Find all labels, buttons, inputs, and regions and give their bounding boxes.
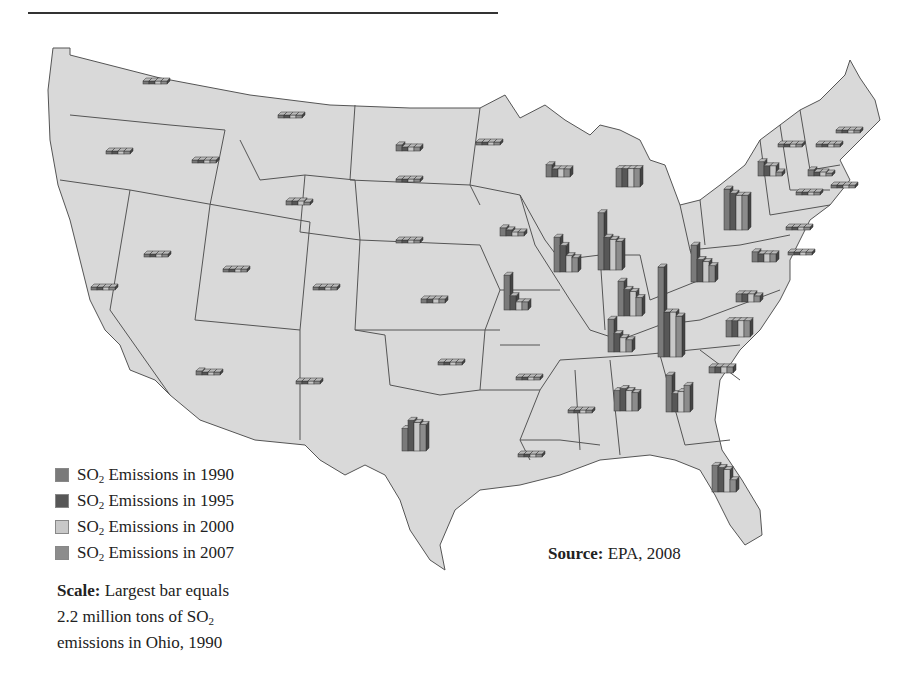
bar-cluster-oregon <box>106 148 133 154</box>
bar-cluster-colorado <box>313 284 340 290</box>
bar-cluster-kansas <box>421 296 448 303</box>
bar-cluster-maine <box>836 127 863 133</box>
bar-cluster-oklahoma <box>438 359 465 365</box>
bar-cluster-new-mexico <box>296 378 323 384</box>
bar-cluster-michigan <box>616 166 643 187</box>
legend: SO2 Emissions in 1990 SO2 Emissions in 1… <box>55 462 234 566</box>
bar-cluster-arizona <box>196 368 223 375</box>
bar-cluster-nevada <box>144 251 171 257</box>
bar-cluster-maryland <box>752 249 779 262</box>
scale-note: Scale: Largest bar equals 2.2 million to… <box>57 578 297 656</box>
legend-item-1990: SO2 Emissions in 1990 <box>55 462 234 488</box>
source-label: Source: <box>548 544 603 563</box>
bar-cluster-utah <box>223 266 250 272</box>
legend-item-2000: SO2 Emissions in 2000 <box>55 514 234 540</box>
legend-item-2007: SO2 Emissions in 2007 <box>55 540 234 566</box>
bar-cluster-connecticut <box>796 189 823 195</box>
bar-cluster-south-dakota <box>396 176 423 182</box>
swatch-1995 <box>55 494 69 508</box>
bar-cluster-florida <box>712 462 739 492</box>
source-note: Source: EPA, 2008 <box>548 544 681 564</box>
swatch-2000 <box>55 520 69 534</box>
bar-cluster-mississippi <box>568 407 595 413</box>
legend-item-1995: SO2 Emissions in 1995 <box>55 488 234 514</box>
swatch-1990 <box>55 468 69 482</box>
bar-cluster-minnesota <box>476 139 503 145</box>
bar-cluster-louisiana <box>518 451 545 457</box>
bar-cluster-new-hampshire <box>816 141 843 147</box>
bar-cluster-delaware <box>788 249 815 255</box>
bar-cluster-new-jersey <box>786 224 813 230</box>
bar-cluster-california <box>91 284 118 290</box>
bar-cluster-pennsylvania <box>724 186 751 230</box>
bar-cluster-montana <box>278 112 305 118</box>
scale-label: Scale: <box>57 581 100 600</box>
swatch-2007 <box>55 546 69 560</box>
bar-cluster-idaho <box>192 157 219 163</box>
bar-cluster-north-carolina <box>726 318 753 337</box>
bar-cluster-vermont <box>778 141 805 147</box>
bar-cluster-arkansas <box>516 374 543 380</box>
bar-cluster-nebraska <box>396 237 423 243</box>
bar-cluster-south-carolina <box>709 364 736 373</box>
bar-cluster-wyoming <box>286 198 313 205</box>
bar-cluster-rhode-island <box>831 182 858 188</box>
bar-cluster-washington <box>143 78 170 84</box>
